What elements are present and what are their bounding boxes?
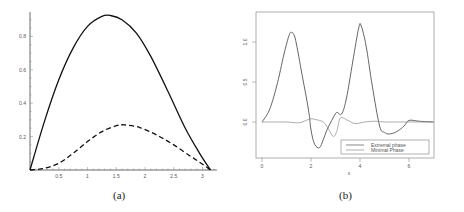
legend-entry: Minimal Phase [371,147,404,153]
y-tick-label: 0.5 [242,78,248,85]
x-tick-label: 1 [86,173,89,179]
y-tick-label: 0.0 [242,118,248,125]
y-tick-label: 0.2 [19,134,26,140]
x-tick-label: 2 [144,173,147,179]
series-extremal-phase [262,23,434,147]
x-tick-label: 3 [201,173,204,179]
series-dashed [30,125,211,170]
x-tick-label: 6 [408,163,411,169]
series-solid [30,15,211,170]
chart-b: 02460.00.51.0xExtremal phaseMinimal Phas… [232,0,464,212]
chart-b-caption: (b) [339,189,352,201]
y-tick-label: 0.8 [19,33,26,39]
chart-a: 0.511.522.530.20.40.60.8 (a) [0,0,232,212]
chart-a-plot: 0.511.522.530.20.40.60.8 [0,0,232,212]
x-tick-label: 1.5 [113,173,120,179]
x-tick-label: 4 [359,163,362,169]
x-axis-label: x [348,170,351,176]
x-tick-label: 0.5 [55,173,62,179]
plot-frame [256,12,434,158]
legend: Extremal phaseMinimal Phase [341,140,429,154]
y-tick-label: 0.6 [19,67,26,73]
x-tick-label: 2 [310,163,313,169]
y-tick-label: 1.0 [242,38,248,45]
x-tick-label: 2.5 [170,173,177,179]
chart-a-caption: (a) [113,189,125,201]
x-tick-label: 0 [261,163,264,169]
y-tick-label: 0.4 [19,100,26,106]
series-minimal-phase [262,117,434,136]
chart-b-plot: 02460.00.51.0xExtremal phaseMinimal Phas… [232,0,464,212]
